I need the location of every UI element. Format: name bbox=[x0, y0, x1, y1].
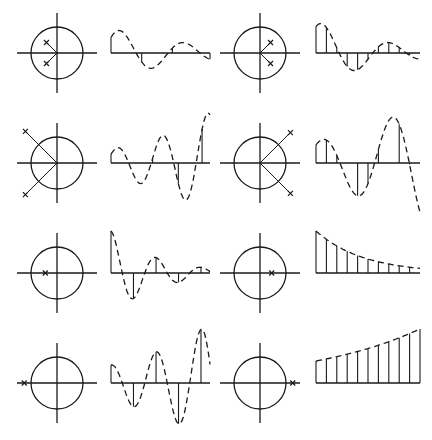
pole-zero-figure bbox=[0, 0, 432, 440]
impulse-response-plot bbox=[316, 231, 420, 273]
z-plane-panel bbox=[17, 13, 97, 93]
envelope-curve bbox=[316, 24, 420, 71]
z-plane-panel bbox=[220, 343, 300, 423]
pole-vector bbox=[25, 163, 57, 195]
z-plane-panel bbox=[220, 233, 300, 313]
pole-x-icon bbox=[268, 61, 273, 66]
pole-x-icon bbox=[44, 61, 49, 66]
impulse-response-plot bbox=[316, 117, 420, 212]
impulse-response-plot bbox=[111, 31, 210, 69]
z-plane-panel bbox=[220, 123, 300, 203]
pole-x-icon bbox=[44, 40, 49, 45]
pole-x-icon bbox=[23, 129, 28, 134]
pole-x-icon bbox=[23, 192, 28, 197]
z-plane-panel bbox=[220, 13, 300, 93]
impulse-response-plot bbox=[316, 24, 420, 71]
envelope-curve bbox=[111, 31, 210, 69]
impulse-response-plot bbox=[316, 329, 420, 383]
z-plane-panel bbox=[17, 343, 97, 423]
impulse-response-plot bbox=[111, 231, 210, 299]
pole-x-icon bbox=[288, 191, 293, 196]
z-plane-panel bbox=[17, 233, 97, 313]
envelope-curve bbox=[111, 231, 210, 299]
impulse-response-plot bbox=[111, 329, 210, 424]
pole-x-icon bbox=[288, 130, 293, 135]
envelope-curve bbox=[111, 113, 210, 200]
pole-x-icon bbox=[268, 40, 273, 45]
impulse-response-plot bbox=[111, 113, 210, 200]
pole-vector bbox=[25, 131, 57, 163]
z-plane-panel bbox=[17, 123, 97, 203]
envelope-curve bbox=[111, 329, 210, 424]
